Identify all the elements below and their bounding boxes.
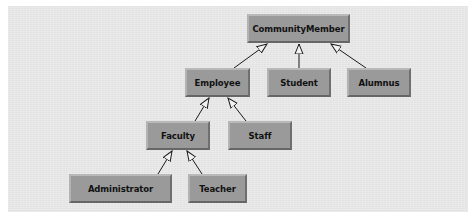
node-faculty: Faculty bbox=[146, 121, 210, 150]
node-staff: Staff bbox=[228, 121, 292, 150]
node-label: Staff bbox=[249, 131, 272, 141]
node-label: Student bbox=[280, 78, 318, 88]
edge-employee-to-communitymember bbox=[234, 44, 267, 68]
node-label: Faculty bbox=[161, 131, 195, 141]
node-community-member: CommunityMember bbox=[247, 14, 350, 43]
node-label: CommunityMember bbox=[252, 24, 344, 34]
node-label: Employee bbox=[195, 78, 241, 88]
node-administrator: Administrator bbox=[69, 174, 172, 203]
edge-administrator-to-faculty bbox=[158, 151, 172, 174]
edge-faculty-to-employee bbox=[195, 98, 209, 121]
node-teacher: Teacher bbox=[188, 174, 247, 203]
edge-alumnus-to-communitymember bbox=[331, 44, 366, 68]
node-label: Alumnus bbox=[359, 78, 400, 88]
node-employee: Employee bbox=[185, 68, 250, 97]
node-alumnus: Alumnus bbox=[347, 68, 411, 97]
edge-teacher-to-faculty bbox=[187, 151, 202, 174]
node-student: Student bbox=[267, 68, 331, 97]
node-label: Administrator bbox=[88, 184, 153, 194]
edge-staff-to-employee bbox=[228, 98, 246, 121]
node-label: Teacher bbox=[199, 184, 236, 194]
